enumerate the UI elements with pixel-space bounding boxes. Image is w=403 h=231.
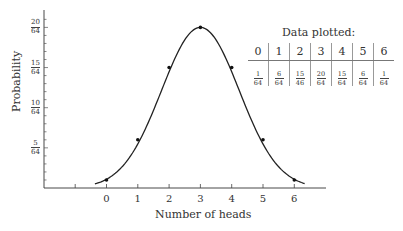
table-value-cell: 1564 xyxy=(332,61,353,87)
data-point xyxy=(261,138,265,142)
table-value-cell: 1546 xyxy=(290,61,311,87)
data-point xyxy=(167,66,171,70)
y-tick-label: 2064 xyxy=(31,19,40,35)
x-tick-label: 1 xyxy=(131,193,145,204)
x-axis-ticks xyxy=(75,184,294,188)
x-tick-label: 2 xyxy=(162,193,176,204)
table-header-cell: 3 xyxy=(311,43,332,61)
y-axis-label: Probability xyxy=(10,51,23,112)
x-axis-label: Number of heads xyxy=(155,208,251,221)
x-tick-label: 3 xyxy=(193,193,207,204)
data-point xyxy=(136,138,140,142)
y-tick-label: 564 xyxy=(31,140,40,156)
table-header-cell: 6 xyxy=(374,43,395,61)
data-point xyxy=(293,178,297,182)
table-header-cell: 4 xyxy=(332,43,353,61)
table-header-row: 0123456 xyxy=(248,43,394,61)
table-value-cell: 164 xyxy=(374,61,395,87)
x-tick-label: 4 xyxy=(225,193,239,204)
table-value-cell: 164 xyxy=(248,61,269,87)
table-value-row: 164664154620641564664164 xyxy=(248,61,394,87)
x-tick-label: 5 xyxy=(256,193,270,204)
data-point xyxy=(105,178,109,182)
x-tick-label: 0 xyxy=(100,193,114,204)
table-header-cell: 5 xyxy=(353,43,374,61)
data-point xyxy=(199,26,203,30)
y-tick-label: 1564 xyxy=(31,60,40,76)
x-tick-label: 6 xyxy=(287,193,301,204)
y-axis-ticks xyxy=(44,19,48,180)
table-value-cell: 2064 xyxy=(311,61,332,87)
table-value-cell: 664 xyxy=(269,61,290,87)
table-header-cell: 1 xyxy=(269,43,290,61)
y-tick-label: 1064 xyxy=(31,100,40,116)
data-table: 0123456 164664154620641564664164 xyxy=(248,43,394,86)
table-title: Data plotted: xyxy=(282,26,355,39)
table-header-cell: 0 xyxy=(248,43,269,61)
table-header-cell: 2 xyxy=(290,43,311,61)
data-point xyxy=(230,66,234,70)
table-value-cell: 664 xyxy=(353,61,374,87)
